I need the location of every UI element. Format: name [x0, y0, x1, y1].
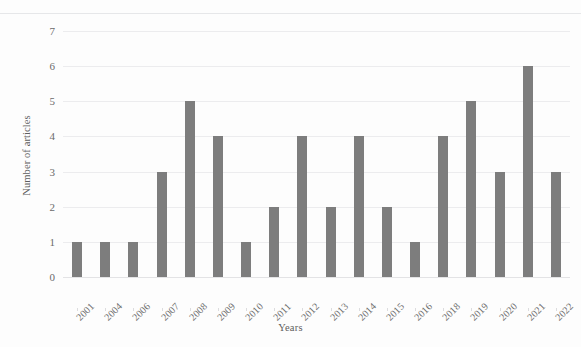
gridline [63, 101, 570, 102]
bar-2004 [100, 242, 110, 277]
x-axis-tick-label-2009: 2009 [215, 301, 237, 323]
bar-2010 [241, 242, 251, 277]
x-axis-tick-label-2004: 2004 [102, 301, 124, 323]
x-axis-tick-label-2006: 2006 [130, 301, 152, 323]
gridline [63, 136, 570, 137]
gridline [63, 31, 570, 32]
bar-2022 [551, 172, 561, 277]
x-axis-tick-label-2001: 2001 [74, 301, 96, 323]
y-axis-tick-label: 5 [35, 96, 55, 107]
x-axis-tick-label-2020: 2020 [497, 301, 519, 323]
x-axis-tick-label-2014: 2014 [356, 301, 378, 323]
x-axis-tick-label-2015: 2015 [384, 301, 406, 323]
x-axis-tick-label-2007: 2007 [159, 301, 181, 323]
x-axis-title: Years [0, 322, 581, 333]
x-axis-tick-label-2022: 2022 [553, 301, 575, 323]
x-axis-tick-label-2010: 2010 [243, 301, 265, 323]
y-axis-title: Number of articles [21, 86, 32, 226]
y-axis-tick-label: 3 [35, 167, 55, 178]
x-axis-tick-label-2008: 2008 [187, 301, 209, 323]
x-axis-tick-label-2012: 2012 [299, 301, 321, 323]
bar-2001 [72, 242, 82, 277]
x-axis-tick-label-2016: 2016 [412, 301, 434, 323]
y-axis-tick-label: 2 [35, 202, 55, 213]
y-axis-tick-label: 0 [35, 272, 55, 283]
y-axis-tick-label: 4 [35, 131, 55, 142]
y-axis-tick-label: 6 [35, 61, 55, 72]
bar-2016 [410, 242, 420, 277]
gridline [63, 277, 570, 278]
bar-2014 [354, 136, 364, 277]
bar-2007 [157, 172, 167, 277]
bar-2013 [326, 207, 336, 277]
page-top-rule [0, 13, 581, 14]
x-axis-tick-label-2019: 2019 [468, 301, 490, 323]
x-axis-tick-label-2018: 2018 [440, 301, 462, 323]
x-axis-tick-label-2013: 2013 [328, 301, 350, 323]
bar-2020 [495, 172, 505, 277]
x-axis-tick-label-2011: 2011 [271, 301, 293, 323]
bar-2021 [523, 66, 533, 277]
bar-2018 [438, 136, 448, 277]
x-axis-tick-label-2021: 2021 [525, 301, 547, 323]
bar-2019 [466, 101, 476, 277]
bar-2008 [185, 101, 195, 277]
gridline [63, 66, 570, 67]
y-axis-tick-label: 1 [35, 237, 55, 248]
bar-2006 [128, 242, 138, 277]
plot-area: 0123456720012004200620072008200920102011… [63, 31, 570, 277]
y-axis-tick-label: 7 [35, 26, 55, 37]
bar-2015 [382, 207, 392, 277]
bar-2011 [269, 207, 279, 277]
bar-2012 [297, 136, 307, 277]
bar-2009 [213, 136, 223, 277]
bar-chart-figure: Number of articles 012345672001200420062… [0, 0, 581, 347]
